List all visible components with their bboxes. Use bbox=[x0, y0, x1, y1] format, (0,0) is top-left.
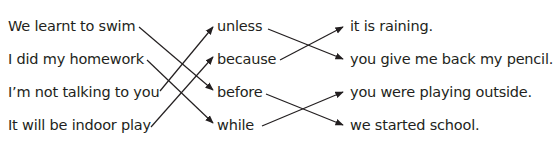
arrow-homework-while bbox=[147, 60, 213, 123]
arrow-before-school bbox=[266, 94, 343, 125]
arrow-indoor-because bbox=[151, 57, 213, 127]
arrow-talking-unless bbox=[160, 27, 213, 91]
arrow-swim-before bbox=[139, 27, 213, 90]
